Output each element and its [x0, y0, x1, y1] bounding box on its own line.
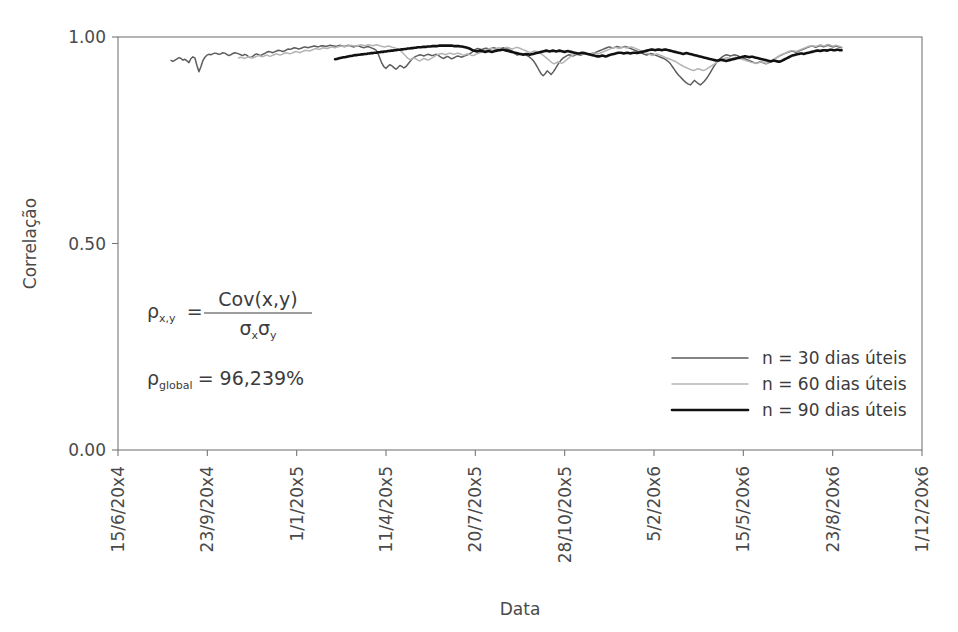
x-tick-label: 28/10/20x5 [555, 466, 575, 563]
legend-label-3: n = 90 dias úteis [762, 400, 907, 420]
legend-label-1: n = 30 dias úteis [762, 348, 907, 368]
formula-rho: ρx,y = [147, 300, 203, 325]
x-axis-title: Data [500, 599, 541, 619]
y-tick-label: 0.50 [68, 234, 106, 254]
formula-annotation: ρx,y =Cov(x,y)σxσyρglobal= 96,239% [147, 288, 312, 392]
x-tick-label: 15/5/20x6 [733, 466, 753, 552]
formula-numerator: Cov(x,y) [218, 288, 298, 310]
formula-denominator: σxσy [239, 317, 277, 342]
x-axis: 15/6/20x423/9/20x41/1/20x511/4/20x520/7/… [108, 450, 932, 563]
x-tick-label: 23/9/20x4 [197, 466, 217, 552]
y-tick-label: 1.00 [68, 27, 106, 47]
x-tick-label: 5/2/20x6 [644, 466, 664, 542]
x-tick-label: 23/8/20x6 [823, 466, 843, 552]
x-tick-label: 15/6/20x4 [108, 466, 128, 552]
x-tick-label: 11/4/20x5 [376, 466, 396, 552]
x-tick-label: 20/7/20x5 [465, 466, 485, 552]
chart-canvas: 0.000.501.00Correlação15/6/20x423/9/20x4… [0, 0, 958, 632]
global-rho-annotation: ρglobal= 96,239% [147, 367, 304, 392]
correlation-chart: 0.000.501.00Correlação15/6/20x423/9/20x4… [0, 0, 958, 632]
x-tick-label: 1/1/20x5 [287, 466, 307, 542]
legend-label-2: n = 60 dias úteis [762, 374, 907, 394]
y-axis-title: Correlação [20, 198, 40, 289]
x-tick-label: 1/12/20x6 [912, 466, 932, 552]
y-axis: 0.000.501.00 [68, 27, 118, 460]
legend: n = 30 dias úteisn = 60 dias úteisn = 90… [672, 348, 907, 420]
y-tick-label: 0.00 [68, 440, 106, 460]
